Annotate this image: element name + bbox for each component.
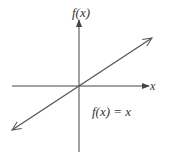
x-axis-label: x	[150, 79, 155, 94]
y-axis-label: f(x)	[72, 5, 90, 21]
graph-canvas	[0, 0, 169, 159]
function-label: f(x) = x	[92, 104, 131, 120]
